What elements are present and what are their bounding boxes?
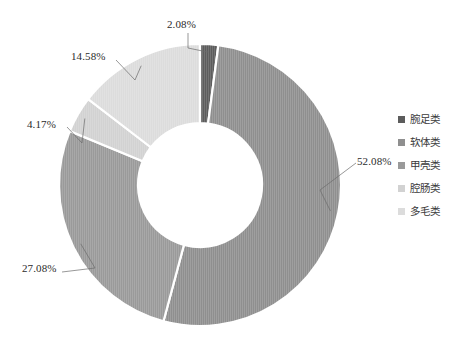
legend: 腕足类软体类甲壳类腔肠类多毛类 xyxy=(398,108,473,223)
legend-swatch-icon xyxy=(398,139,405,146)
legend-swatch-icon xyxy=(398,116,405,123)
legend-item[interactable]: 腔肠类 xyxy=(398,177,473,200)
donut-texture-overlay xyxy=(59,44,341,326)
legend-item[interactable]: 腕足类 xyxy=(398,108,473,131)
legend-item-label: 软体类 xyxy=(410,137,440,148)
data-label-duomaolei: 14.58% xyxy=(71,50,106,62)
donut-slice-texture xyxy=(59,131,184,321)
legend-swatch-icon xyxy=(398,185,405,192)
legend-item-label: 腔肠类 xyxy=(410,183,440,194)
data-label-wanzulei: 2.08% xyxy=(167,18,196,30)
legend-item-label: 甲壳类 xyxy=(410,160,440,171)
data-label-qiangchanglei: 4.17% xyxy=(27,118,56,130)
legend-item-label: 腕足类 xyxy=(410,114,440,125)
legend-item[interactable]: 软体类 xyxy=(398,131,473,154)
legend-swatch-icon xyxy=(398,162,405,169)
legend-item[interactable]: 多毛类 xyxy=(398,200,473,223)
chart-page: 2.08% 52.08% 27.08% 4.17% 14.58% 腕足类软体类甲… xyxy=(0,0,473,341)
legend-item-label: 多毛类 xyxy=(410,206,440,217)
data-label-jiakelei: 27.08% xyxy=(22,262,57,274)
legend-swatch-icon xyxy=(398,208,405,215)
legend-item[interactable]: 甲壳类 xyxy=(398,154,473,177)
data-label-ruantilei: 52.08% xyxy=(357,155,392,167)
